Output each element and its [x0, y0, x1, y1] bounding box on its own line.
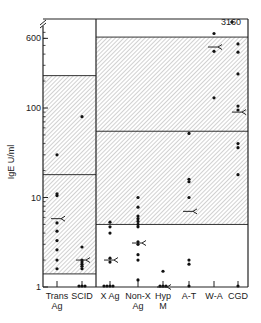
category-label-cgd: CGD [228, 291, 249, 301]
category-label-hyp_m-line2: M [159, 301, 167, 311]
data-point [77, 284, 80, 287]
data-point [105, 284, 108, 287]
mean-arrow-icon [114, 258, 118, 263]
data-point [55, 258, 58, 261]
data-point [236, 284, 239, 287]
data-point [80, 245, 83, 248]
y-tick-label: 600 [26, 33, 41, 43]
data-point [236, 146, 239, 149]
data-point [187, 180, 190, 183]
y-tick-label: 100 [26, 103, 41, 113]
category-label-w_a: W-A [205, 291, 222, 301]
data-point [108, 284, 111, 287]
data-point [108, 232, 111, 235]
data-point [236, 173, 239, 176]
data-point [187, 284, 190, 287]
data-point [236, 108, 239, 111]
y-axis-label: IgE U/ml [6, 145, 16, 180]
data-point [187, 132, 190, 135]
offscale-annotation: 3160 [221, 17, 241, 27]
data-point [187, 196, 190, 199]
data-point [55, 221, 58, 224]
data-point [55, 248, 58, 251]
category-label-x_ag: X Ag [100, 291, 119, 301]
data-point [136, 196, 139, 199]
data-point [55, 239, 58, 242]
x-axis: TransAgSCIDX AgNon-XAgHypMA-TW-ACGD [46, 281, 249, 311]
data-point [212, 32, 215, 35]
data-point [236, 51, 239, 54]
data-point [108, 221, 111, 224]
data-point [187, 258, 190, 261]
mean-arrow-icon [142, 241, 146, 246]
data-point [108, 257, 111, 260]
data-point [161, 270, 164, 273]
category-label-a_t: A-T [182, 291, 197, 301]
data-point [102, 284, 105, 287]
data-point [136, 278, 139, 281]
category-label-hyp_m: Hyp [155, 291, 171, 301]
data-point [236, 142, 239, 145]
data-point [212, 50, 215, 53]
data-point [80, 115, 83, 118]
category-label-non_x_ag-line2: Ag [132, 301, 143, 311]
data-point [55, 153, 58, 156]
category-label-scid: SCID [71, 291, 93, 301]
data-point [136, 206, 139, 209]
data-point [83, 284, 86, 287]
data-point [212, 96, 215, 99]
data-point [136, 225, 139, 228]
data-point [80, 267, 83, 270]
data-point [111, 284, 114, 287]
ige-chart: 110100600 TransAgSCIDX AgNon-XAgHypMA-TW… [0, 0, 261, 323]
y-tick-label: 1 [36, 282, 41, 292]
data-point [136, 220, 139, 223]
data-point [108, 225, 111, 228]
data-point [236, 42, 239, 45]
data-point [55, 230, 58, 233]
data-point [236, 105, 239, 108]
data-point [80, 284, 83, 287]
y-tick-label: 10 [31, 193, 41, 203]
category-label-non_x_ag: Non-X [125, 291, 151, 301]
data-point [55, 267, 58, 270]
data-point [236, 72, 239, 75]
category-label-trans_ag: Trans [46, 291, 69, 301]
data-point [55, 194, 58, 197]
data-point [136, 253, 139, 256]
data-point [136, 258, 139, 261]
reference-bands [43, 37, 248, 274]
data-point [136, 217, 139, 220]
data-point [108, 260, 111, 263]
data-point [187, 263, 190, 266]
category-label-trans_ag-line2: Ag [51, 301, 62, 311]
